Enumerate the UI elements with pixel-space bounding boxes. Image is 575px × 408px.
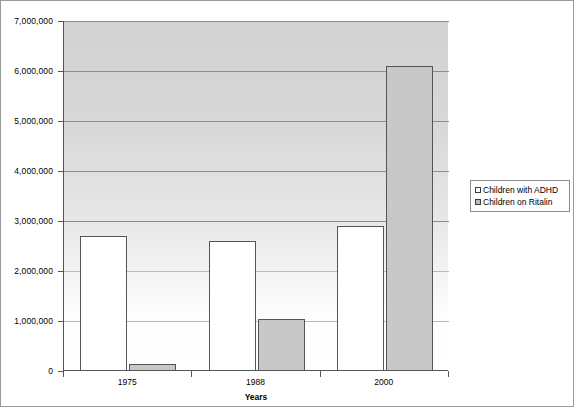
y-axis-tick-label: 5,000,000 — [0, 116, 53, 126]
y-axis-tick-label: 7,000,000 — [0, 16, 53, 26]
y-axis-tick-label: 4,000,000 — [0, 166, 53, 176]
bar-children-on-ritalin-1975[interactable] — [129, 364, 176, 372]
legend-item-children-on-ritalin[interactable]: Children on Ritalin — [475, 196, 566, 208]
x-axis-tick-label: 2000 — [320, 377, 448, 387]
x-axis-tick-label: 1988 — [191, 377, 319, 387]
x-axis-title: Years — [1, 392, 511, 402]
gridline — [64, 21, 449, 22]
chart-legend: Children with ADHD Children on Ritalin — [470, 180, 570, 212]
chart-frame: 01,000,0002,000,0003,000,0004,000,0005,0… — [0, 0, 574, 407]
legend-label-children-with-adhd: Children with ADHD — [483, 185, 558, 196]
bar-children-on-ritalin-1988[interactable] — [258, 319, 305, 372]
y-axis-tick-label: 0 — [0, 366, 53, 376]
legend-item-children-with-adhd[interactable]: Children with ADHD — [475, 184, 566, 196]
y-axis-tick-label: 2,000,000 — [0, 266, 53, 276]
legend-swatch-children-with-adhd — [475, 187, 481, 193]
bar-children-on-ritalin-2000[interactable] — [386, 66, 433, 371]
x-axis-tick-label: 1975 — [63, 377, 191, 387]
bar-children-with-adhd-1988[interactable] — [209, 241, 256, 371]
bar-children-with-adhd-1975[interactable] — [80, 236, 127, 371]
plot-area — [63, 21, 448, 371]
legend-swatch-children-on-ritalin — [475, 199, 481, 205]
x-axis-tick-mark — [448, 371, 449, 377]
y-axis-tick-label: 3,000,000 — [0, 216, 53, 226]
bar-children-with-adhd-2000[interactable] — [337, 226, 384, 371]
y-axis-tick-label: 1,000,000 — [0, 316, 53, 326]
legend-label-children-on-ritalin: Children on Ritalin — [483, 197, 552, 208]
y-axis-tick-label: 6,000,000 — [0, 66, 53, 76]
